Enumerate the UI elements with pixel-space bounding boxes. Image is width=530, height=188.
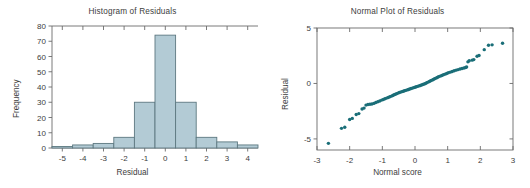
svg-text:-5: -5 — [59, 154, 67, 163]
svg-text:-1: -1 — [141, 154, 149, 163]
svg-text:70: 70 — [37, 37, 46, 46]
svg-text:3: 3 — [511, 156, 516, 165]
histogram-bar — [93, 143, 114, 148]
normal-plot-point-series — [327, 42, 505, 145]
svg-text:40: 40 — [37, 83, 46, 92]
svg-text:0: 0 — [413, 156, 418, 165]
histogram-bar — [217, 142, 238, 148]
histogram-bar — [134, 102, 155, 148]
svg-text:1: 1 — [445, 156, 450, 165]
svg-text:50: 50 — [37, 68, 46, 77]
svg-text:5: 5 — [307, 24, 312, 33]
svg-text:-2: -2 — [121, 154, 129, 163]
svg-text:30: 30 — [37, 98, 46, 107]
svg-text:-3: -3 — [313, 156, 321, 165]
svg-text:4: 4 — [245, 154, 250, 163]
svg-text:-4: -4 — [79, 154, 87, 163]
histogram-bar — [155, 35, 176, 148]
histogram-panel: Histogram of Residuals Frequency Residua… — [0, 0, 265, 188]
svg-text:2: 2 — [204, 154, 209, 163]
svg-text:60: 60 — [37, 53, 46, 62]
svg-text:3: 3 — [225, 154, 230, 163]
svg-text:80: 80 — [37, 22, 46, 31]
histogram-bar — [196, 137, 217, 148]
histogram-bar — [237, 145, 258, 148]
normal-plot-panel: Normal Plot of Residuals Residual Normal… — [265, 0, 530, 188]
svg-text:0: 0 — [307, 79, 312, 88]
normal-plot-plot-area: -505-3-2-10123 — [265, 0, 530, 188]
histogram-bar — [52, 146, 73, 148]
svg-text:-5: -5 — [304, 135, 312, 144]
residual-diagnostics-figure: Histogram of Residuals Frequency Residua… — [0, 0, 530, 188]
histogram-bar — [73, 145, 94, 148]
svg-text:-2: -2 — [346, 156, 354, 165]
svg-text:2: 2 — [478, 156, 483, 165]
svg-text:1: 1 — [184, 154, 189, 163]
svg-text:20: 20 — [37, 114, 46, 123]
svg-text:10: 10 — [37, 129, 46, 138]
histogram-bar — [176, 102, 197, 148]
svg-text:-1: -1 — [379, 156, 387, 165]
histogram-bar — [114, 137, 135, 148]
svg-text:-3: -3 — [100, 154, 108, 163]
svg-text:0: 0 — [163, 154, 168, 163]
svg-text:0: 0 — [42, 144, 47, 153]
histogram-plot-area: 01020304050607080-5-4-3-2-101234 — [0, 0, 265, 188]
